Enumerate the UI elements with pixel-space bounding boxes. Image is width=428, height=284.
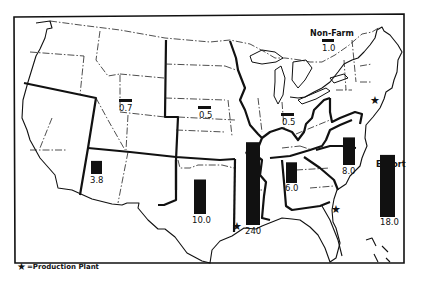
region-border-pacific: [24, 83, 96, 195]
bar-southeast: [286, 162, 297, 183]
bar-appalachian: [343, 137, 355, 165]
label-appalachian: 8.0: [342, 166, 356, 176]
region-border-sc-ga: [304, 157, 338, 190]
label-export: 18.0: [380, 217, 399, 227]
bar-southern-plains: [194, 180, 206, 215]
star-icon: ★: [232, 220, 242, 233]
non-farm-title: Non-Farm: [310, 29, 354, 38]
label-southern-plains: 10.0: [192, 215, 211, 225]
label-mountain-north: 0.7: [119, 103, 133, 113]
bar-delta: [246, 142, 260, 225]
lake-michigan: [274, 66, 285, 104]
star-icon: ★: [370, 94, 380, 107]
legend-star-icon: ★: [17, 261, 26, 272]
region-border-ohio: [330, 98, 362, 124]
region-border-mountain-south: [88, 148, 235, 160]
lake-erie: [298, 88, 330, 104]
export-title: Export: [376, 160, 406, 169]
label-non-farm: 1.0: [322, 43, 336, 53]
bar-southwest: [91, 161, 102, 174]
label-southeast: 6.0: [285, 183, 299, 193]
legend-text: =Production Plant: [27, 263, 100, 271]
label-delta: 240: [245, 226, 261, 236]
bar-mountain-north: [119, 99, 132, 102]
label-plains-north: 0.5: [199, 110, 213, 120]
bar-cornbelt: [281, 113, 294, 116]
bar-non-farm: [322, 39, 334, 42]
bars-layer: [91, 39, 395, 225]
label-cornbelt: 0.5: [282, 117, 296, 127]
bar-plains-north: [198, 106, 211, 109]
star-icon: ★: [331, 203, 341, 216]
region-border-plains-delta: [158, 160, 176, 205]
label-southwest: 3.8: [90, 175, 104, 185]
lake-superior: [250, 50, 283, 64]
caribbean-islands: [366, 238, 390, 262]
region-border-cornbelt-west: [230, 41, 262, 152]
lake-huron: [292, 60, 312, 88]
us-regional-map: 0.7 0.5 0.5 3.8 10.0 240 6.0 8.0 Non-Far…: [0, 0, 428, 284]
